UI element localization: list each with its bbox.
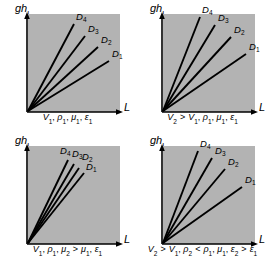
curve-label-d1: D1 [249,41,260,53]
panel-top-right: ghL L D1 D2 D3 D4 V2 > V1, ρ1, μ1, ε1 [135,0,270,132]
panel-caption: V2 > V1, ρ2 < ρ1, μ1, ε2 > ε1 [135,245,270,256]
curve-label-d1: D1 [112,48,123,60]
panel-bottom-right: ghL L D1 D2 D3 D4 V2 > V1, ρ2 < ρ1, μ1, … [135,132,270,264]
figure-container: ghL L D1 D2 D3 D4 V1, ρ1, μ1, ε1 ghL L [0,0,271,264]
curve-label-d4: D4 [200,138,211,150]
curve-label-d3: D3 [218,12,229,24]
panel-caption: V1, ρ1, μ2 > μ1, ε1 [0,245,135,256]
panel-bottom-left: ghL L D1 D2 D3 D4 V1, ρ1, μ2 > μ1, ε1 [0,132,135,264]
curve-label-d4: D4 [76,11,87,23]
panel-caption: V1, ρ1, μ1, ε1 [0,113,135,124]
panel-top-left: ghL L D1 D2 D3 D4 V1, ρ1, μ1, ε1 [0,0,135,132]
curve-label-d4: D4 [202,4,213,16]
panel-caption: V2 > V1, ρ1, μ1, ε1 [135,113,270,124]
plot-background [28,146,120,244]
plot-background [163,146,255,244]
